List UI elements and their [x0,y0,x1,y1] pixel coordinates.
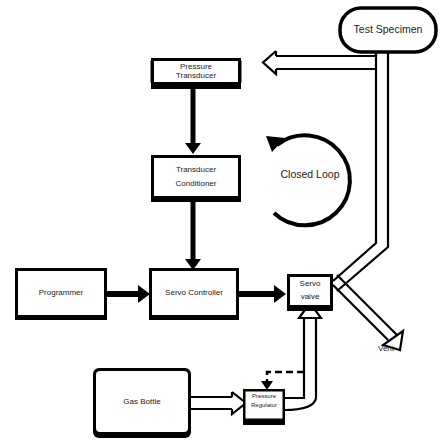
servo-valve-label-2: valve [301,292,320,301]
signal-controller-to-valve [238,285,286,303]
closed-loop-arc [266,135,350,225]
test-specimen-label: Test Specimen [354,23,423,35]
programmer-label: Programmer [39,288,84,297]
closed-loop-label: Closed Loop [281,168,340,180]
transducer-conditioner-label-2: Conditioner [176,179,217,188]
vent-label: Vent [378,344,395,353]
gas-line-regulator-to-valve [284,303,321,410]
pressure-transducer-label-1: Pressure [180,62,213,71]
pilot-line-dashed [261,372,304,390]
gas-line-bottle-to-regulator [190,392,246,414]
servo-control-diagram: Closed Loop Test Specimen [0,0,443,445]
signal-transducer-to-conditioner [185,84,201,154]
signal-programmer-to-controller [106,285,150,303]
gas-bottle-label: Gas Bottle [123,397,161,406]
node-test-specimen: Test Specimen [340,8,436,52]
transducer-conditioner-label-1: Transducer [176,165,217,174]
pressure-transducer-label-2: Transducer [176,71,217,80]
pressure-regulator-label-1: Pressure [252,393,277,399]
servo-valve-label-1: Servo [300,279,321,288]
servo-controller-label: Servo Controller [165,288,223,297]
pressure-regulator-label-2: Regulator [251,402,277,408]
signal-conditioner-to-controller [185,202,201,270]
